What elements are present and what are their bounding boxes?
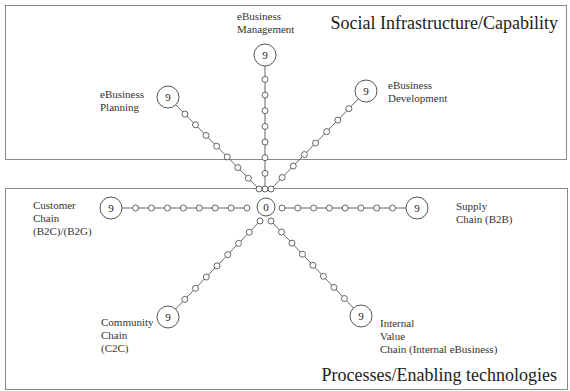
scale-node — [236, 240, 242, 246]
scale-node — [262, 92, 268, 98]
scale-node — [262, 155, 268, 161]
scale-node — [290, 163, 296, 169]
axis-end-value: 9 — [363, 85, 369, 97]
scale-node — [148, 205, 154, 211]
scale-node — [268, 186, 274, 192]
scale-node — [246, 229, 252, 235]
scale-node — [203, 274, 209, 280]
scale-node — [326, 205, 332, 211]
scale-node — [268, 218, 274, 224]
axis-end-value: 9 — [165, 311, 171, 323]
axis-supply-chain: 9 — [279, 197, 428, 219]
scale-node — [133, 205, 139, 211]
axis-ebusiness-planning: 9 — [157, 86, 262, 192]
scale-node — [279, 175, 285, 181]
scale-node — [262, 139, 268, 145]
axis-label-ebusiness-planning: eBusiness Planning — [100, 88, 144, 114]
axis-customer-chain: 9 — [100, 197, 250, 219]
scale-node — [289, 240, 295, 246]
scale-node — [228, 205, 234, 211]
scale-node — [390, 205, 396, 211]
scale-node — [235, 165, 241, 171]
scale-node — [301, 152, 307, 158]
scale-node — [295, 205, 301, 211]
center-value: 0 — [263, 201, 269, 213]
axis-end-value: 9 — [108, 202, 114, 214]
axis-end-value: 9 — [165, 91, 171, 103]
scale-node — [192, 122, 198, 128]
scale-node — [331, 284, 337, 290]
scale-node — [310, 262, 316, 268]
scale-node — [262, 123, 268, 129]
scale-node — [299, 251, 305, 257]
scale-node — [335, 117, 341, 123]
scale-node — [324, 129, 330, 135]
scale-node — [262, 108, 268, 114]
scale-node — [374, 205, 380, 211]
scale-node — [279, 205, 285, 211]
scale-node — [180, 205, 186, 211]
scale-node — [262, 170, 268, 176]
scale-node — [245, 175, 251, 181]
scale-node — [244, 205, 250, 211]
axis-end-value: 9 — [414, 202, 420, 214]
axis-label-supply-chain: Supply Chain (B2B) — [456, 200, 513, 226]
axis-internal-value-chain: 9 — [268, 218, 372, 327]
center-node: 0 — [257, 198, 275, 216]
axis-label-ebusiness-development: eBusiness Development — [388, 79, 447, 105]
axis-end-value: 9 — [262, 49, 268, 61]
scale-node — [164, 205, 170, 211]
scale-node — [214, 143, 220, 149]
scale-node — [262, 186, 268, 192]
scale-node — [341, 295, 347, 301]
scale-node — [212, 205, 218, 211]
scale-node — [342, 205, 348, 211]
scale-node — [193, 285, 199, 291]
scale-node — [346, 106, 352, 112]
axis-ebusiness-development: 9 — [268, 80, 377, 192]
scale-node — [257, 218, 263, 224]
scale-node — [278, 229, 284, 235]
scale-node — [313, 140, 319, 146]
axis-label-ebusiness-management: eBusiness Management — [237, 10, 294, 36]
scale-node — [214, 263, 220, 269]
scale-node — [358, 205, 364, 211]
scale-node — [256, 186, 262, 192]
scale-node — [262, 76, 268, 82]
scale-node — [182, 111, 188, 117]
axis-label-internal-value-chain: Internal Value Chain (Internal eBusiness… — [380, 317, 497, 356]
axis-label-community-chain: Community Chain (C2C) — [101, 316, 154, 355]
scale-node — [182, 296, 188, 302]
scale-node — [203, 132, 209, 138]
axis-community-chain: 9 — [157, 218, 263, 328]
scale-node — [311, 205, 317, 211]
radar-diagram: Social Infrastructure/Capability Process… — [0, 0, 570, 391]
scale-node — [225, 252, 231, 258]
scale-node — [196, 205, 202, 211]
axis-label-customer-chain: Customer Chain (B2C)/(B2G) — [33, 199, 92, 238]
scale-node — [224, 154, 230, 160]
axis-ebusiness-management: 9 — [254, 44, 276, 192]
axis-end-value: 9 — [358, 310, 364, 322]
scale-node — [320, 273, 326, 279]
